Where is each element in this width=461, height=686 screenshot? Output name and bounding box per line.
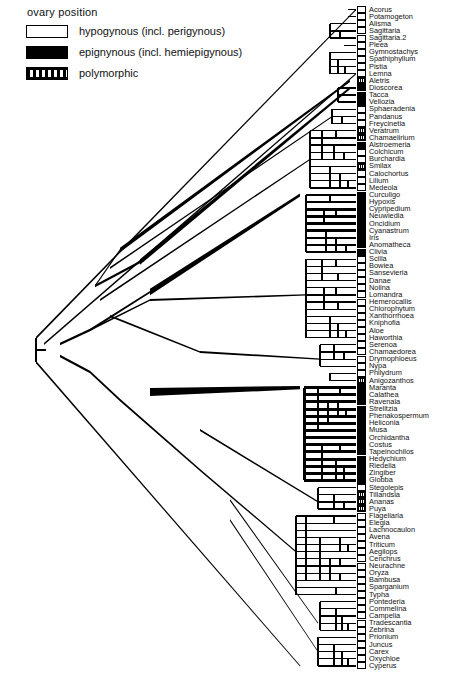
tree-branch-juncaceae [230, 519, 318, 652]
tree-backbone-upper [36, 9, 356, 339]
tree-branch-monocot-stem [90, 371, 120, 401]
tree-branch-asparagales-stem [90, 299, 150, 331]
taxon-label: Cyperus [369, 662, 397, 670]
tree-backbone-lower [36, 361, 300, 667]
tree-branch-arecales [200, 351, 320, 360]
tree-branch-dioscoreales-stem [95, 261, 140, 288]
tree-branch-zingiberales [150, 386, 300, 396]
tree-branch-liliales-stem [100, 159, 310, 301]
taxon-row: Cyperus [357, 661, 397, 670]
tree-branch-commelinales [230, 499, 318, 624]
taxon-state-open-icon [357, 662, 366, 669]
tree-branch-asparagales-open [150, 294, 306, 301]
figure-root: ovary position hypogynous (incl. perigyn… [0, 0, 461, 686]
tree-branch-asparagales-dark [150, 194, 300, 296]
tree-branch-arecales-stem [110, 315, 200, 353]
tree-branch-lilioid-base [60, 329, 90, 345]
tree-branch-basal-stem [60, 355, 90, 373]
tree-branch-bromeliaceae [200, 429, 318, 503]
tree-branch-poales [200, 469, 296, 553]
tree-branch-commelinid-stem [120, 399, 200, 471]
